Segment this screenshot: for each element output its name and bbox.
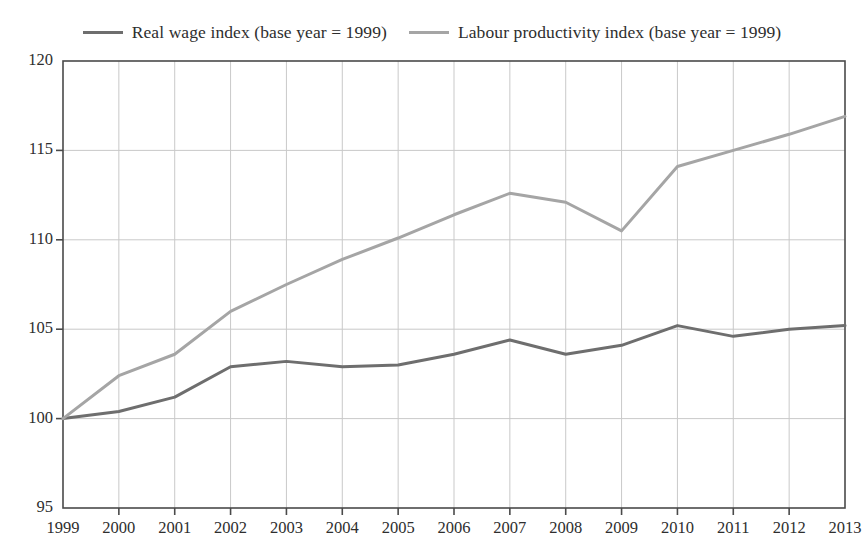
x-axis-tick-label: 2010 (647, 518, 707, 538)
y-axis-tick-label: 120 (5, 50, 53, 70)
y-axis-tick-label: 110 (5, 229, 53, 249)
x-axis-tick-label: 2013 (815, 518, 864, 538)
x-axis-tick-label: 2011 (703, 518, 763, 538)
line-chart-svg (0, 0, 864, 550)
x-axis-tick-label: 2004 (312, 518, 372, 538)
x-axis-tick-label: 2009 (592, 518, 652, 538)
plot-area (0, 0, 864, 550)
chart-figure: Real wage index (base year = 1999) Labou… (0, 0, 864, 550)
x-axis-tick-label: 2012 (759, 518, 819, 538)
x-axis-tick-label: 2005 (368, 518, 428, 538)
y-axis-tick-label: 105 (5, 318, 53, 338)
x-axis-tick-label: 2001 (145, 518, 205, 538)
x-axis-tick-label: 2002 (201, 518, 261, 538)
x-axis-tick-label: 2006 (424, 518, 484, 538)
x-axis-tick-label: 2003 (256, 518, 316, 538)
x-axis-tick-label: 1999 (33, 518, 93, 538)
x-axis-tick-label: 2000 (89, 518, 149, 538)
x-axis-tick-label: 2007 (480, 518, 540, 538)
x-axis-tick-label: 2008 (536, 518, 596, 538)
y-axis-tick-label: 95 (5, 497, 53, 517)
y-axis-tick-label: 100 (5, 408, 53, 428)
y-axis-tick-label: 115 (5, 139, 53, 159)
